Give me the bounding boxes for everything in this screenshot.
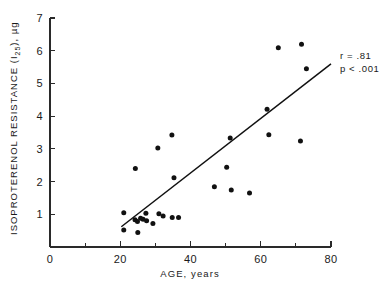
y-axis-label-tail: ), µg [8,21,19,45]
data-point [150,221,155,226]
data-point [298,139,303,144]
chart-canvas: ISOPROTERENOL RESISTANCE (I25), µg 1 2 3… [0,0,386,284]
x-axis-title: AGE, years [160,268,220,279]
data-point [133,166,138,171]
data-point [155,145,160,150]
regression-line [121,64,331,227]
x-axis-ticks [85,241,331,247]
data-point [121,227,126,232]
data-point [176,215,181,220]
annotation-pvalue: p < .001 [340,63,379,74]
data-point [171,175,176,180]
x-tick-label-80: 80 [324,253,337,265]
x-axis-tick-labels: 0 20 40 60 80 [47,253,338,265]
y-axis-tick-labels: 1 2 3 4 5 6 7 [36,12,43,220]
y-axis-ticks [50,18,55,214]
y-tick-label-6: 6 [36,45,43,57]
y-tick-label-5: 5 [36,77,43,89]
data-point [144,218,149,223]
data-point [156,211,161,216]
data-point [161,213,166,218]
data-point [266,132,271,137]
x-tick-label-20: 20 [114,253,127,265]
data-point [229,188,234,193]
x-tick-label-0: 0 [47,253,54,265]
data-point [212,184,217,189]
y-axis-label: ISOPROTERENOL RESISTANCE (I25), µg [8,21,21,235]
data-point [276,45,281,50]
annotation-correlation: r = .81 [340,50,371,61]
data-point [224,165,229,170]
data-point [170,215,175,220]
data-point [169,133,174,138]
data-point [265,107,270,112]
statistics-annotation: r = .81 p < .001 [340,50,379,74]
data-point [228,136,233,141]
data-point [247,191,252,196]
data-points-group [121,42,309,235]
data-point [299,42,304,47]
y-tick-label-7: 7 [36,12,43,24]
y-tick-label-1: 1 [36,208,43,220]
data-point [135,230,140,235]
data-point [304,66,309,71]
y-axis-label-subscript: 25 [14,46,21,56]
x-tick-label-60: 60 [254,253,267,265]
scatter-plot-figure: ISOPROTERENOL RESISTANCE (I25), µg 1 2 3… [0,0,386,284]
y-tick-label-2: 2 [36,176,43,188]
y-tick-label-4: 4 [36,110,43,122]
x-tick-label-40: 40 [184,253,197,265]
y-axis-label-main: ISOPROTERENOL RESISTANCE (I [8,55,19,235]
data-point [143,211,148,216]
svg-text:ISOPROTERENOL RESISTANCE (I2: ISOPROTERENOL RESISTANCE (I25), µg [8,21,21,235]
y-tick-label-3: 3 [36,143,43,155]
data-point [121,210,126,215]
